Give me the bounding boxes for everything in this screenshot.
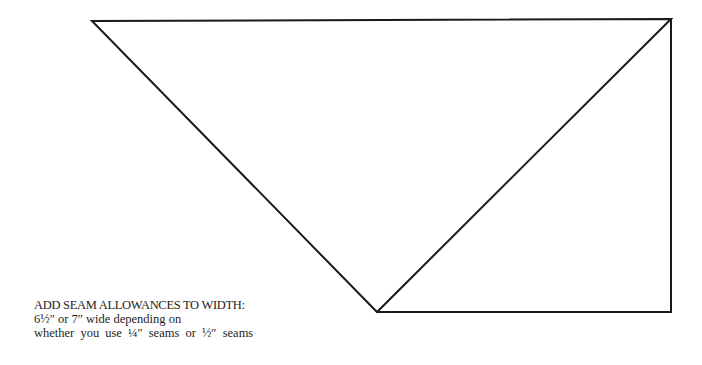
caption-heading: ADD SEAM ALLOWANCES TO WIDTH: — [34, 298, 253, 312]
caption-line-3: whether you use ¼″ seams or ½″ seams — [34, 326, 253, 340]
caption-line-2: 6½″ or 7″ wide depending on — [34, 312, 253, 326]
large-triangle — [92, 19, 671, 312]
seam-allowance-caption: ADD SEAM ALLOWANCES TO WIDTH: 6½″ or 7″ … — [34, 298, 253, 340]
